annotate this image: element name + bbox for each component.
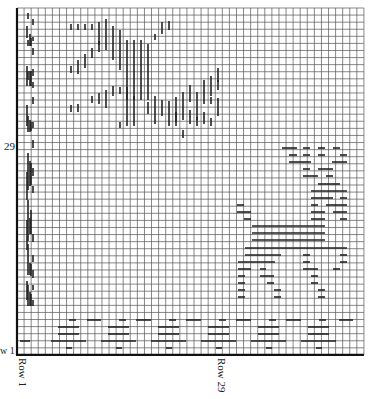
chart-axes <box>16 8 364 356</box>
chart-grid <box>17 8 364 355</box>
row-1-axis-label: Row 1 <box>17 358 28 387</box>
knitting-chart <box>0 0 374 399</box>
row-1-marker-left: w 1 <box>0 346 15 356</box>
stitch-marks <box>20 13 353 348</box>
row-29-axis-label: Row 29 <box>216 358 227 393</box>
row-29-marker-left: 29 <box>4 141 15 152</box>
